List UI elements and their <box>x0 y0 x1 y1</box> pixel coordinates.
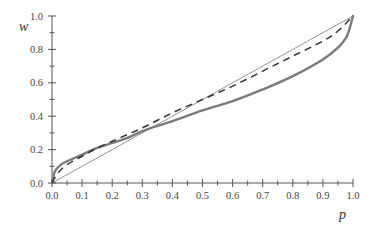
y-axis-label: w <box>19 19 29 34</box>
x-tick-label: 0.3 <box>136 190 149 201</box>
y-axis: 0.00.20.40.60.81.0 <box>30 11 56 189</box>
x-tick-label: 1.0 <box>346 190 359 201</box>
x-tick-label: 0.8 <box>286 190 299 201</box>
y-tick-label: 1.0 <box>30 11 43 22</box>
y-tick-label: 0.0 <box>30 178 43 189</box>
x-axis-label: p <box>338 207 346 222</box>
x-tick-label: 0.1 <box>76 190 89 201</box>
y-tick-label: 0.6 <box>30 77 43 88</box>
x-tick-label: 0.9 <box>316 190 329 201</box>
y-tick-label: 0.8 <box>30 44 43 55</box>
series-group <box>52 16 353 183</box>
x-tick-label: 0.0 <box>45 190 58 201</box>
x-tick-label: 0.4 <box>166 190 180 201</box>
probability-weighting-chart: 0.00.20.40.60.81.0 0.00.10.20.30.40.50.6… <box>0 0 376 229</box>
x-tick-label: 0.6 <box>226 190 239 201</box>
y-tick-label: 0.2 <box>30 144 43 155</box>
y-tick-label: 0.4 <box>30 111 44 122</box>
x-axis: 0.00.10.20.30.40.50.60.70.80.91.0 <box>45 179 359 201</box>
x-tick-label: 0.7 <box>256 190 269 201</box>
x-tick-label: 0.2 <box>106 190 119 201</box>
x-tick-label: 0.5 <box>196 190 209 201</box>
